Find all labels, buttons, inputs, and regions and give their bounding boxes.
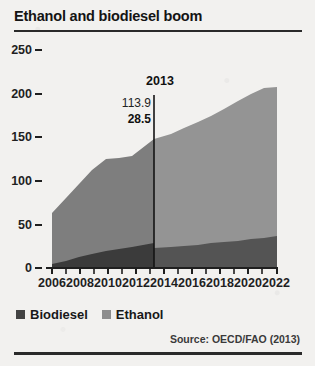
x-tick-label: 2006 bbox=[38, 276, 66, 290]
x-tick-label: 2010 bbox=[94, 276, 122, 290]
x-tick-label: 2014 bbox=[150, 276, 178, 290]
area-chart-svg bbox=[0, 34, 315, 274]
y-tick-mark bbox=[35, 93, 42, 95]
legend-swatch-ethanol bbox=[102, 310, 111, 319]
y-tick-mark bbox=[35, 180, 42, 182]
x-tick-label: 2022 bbox=[262, 276, 290, 290]
y-tick-label: 0 bbox=[25, 261, 32, 275]
y-tick-label: 200 bbox=[11, 87, 32, 101]
y-tick-label: 250 bbox=[11, 43, 32, 57]
legend-item-biodiesel[interactable]: Biodiesel bbox=[16, 307, 88, 322]
y-tick-mark bbox=[35, 136, 42, 138]
legend-label-biodiesel: Biodiesel bbox=[30, 307, 88, 322]
y-tick-mark bbox=[35, 224, 42, 226]
y-tick-label: 50 bbox=[18, 218, 32, 232]
chart-legend: Biodiesel Ethanol bbox=[16, 305, 163, 323]
chart-card: Ethanol and biodiesel boom bbox=[0, 0, 315, 366]
legend-item-ethanol[interactable]: Ethanol bbox=[102, 307, 164, 322]
x-axis-labels: 2006 2008 2010 2012 2014 2016 2018 2020 … bbox=[0, 276, 315, 296]
y-tick-mark bbox=[35, 267, 42, 269]
legend-label-ethanol: Ethanol bbox=[116, 307, 164, 322]
source-note: Source: OECD/FAO (2013) bbox=[170, 333, 300, 345]
y-tick-mark bbox=[35, 49, 42, 51]
annotation-year-label: 2013 bbox=[146, 74, 174, 88]
x-tick-label: 2018 bbox=[206, 276, 234, 290]
y-tick-label: 150 bbox=[11, 130, 32, 144]
x-tick-label: 2008 bbox=[66, 276, 94, 290]
annotation-ethanol-value: 113.9 bbox=[107, 96, 151, 110]
annotation-biodiesel-value: 28.5 bbox=[107, 112, 151, 126]
footer-divider bbox=[14, 352, 302, 355]
x-tick-label: 2020 bbox=[234, 276, 262, 290]
y-tick-label: 100 bbox=[11, 174, 32, 188]
title-divider bbox=[14, 30, 302, 32]
page-title: Ethanol and biodiesel boom bbox=[14, 8, 202, 24]
x-tick-label: 2016 bbox=[178, 276, 206, 290]
legend-swatch-biodiesel bbox=[16, 310, 25, 319]
x-tick-label: 2012 bbox=[122, 276, 150, 290]
y-axis-labels: 250 200 150 100 50 0 bbox=[0, 34, 46, 274]
chart-plot-area bbox=[0, 34, 315, 274]
